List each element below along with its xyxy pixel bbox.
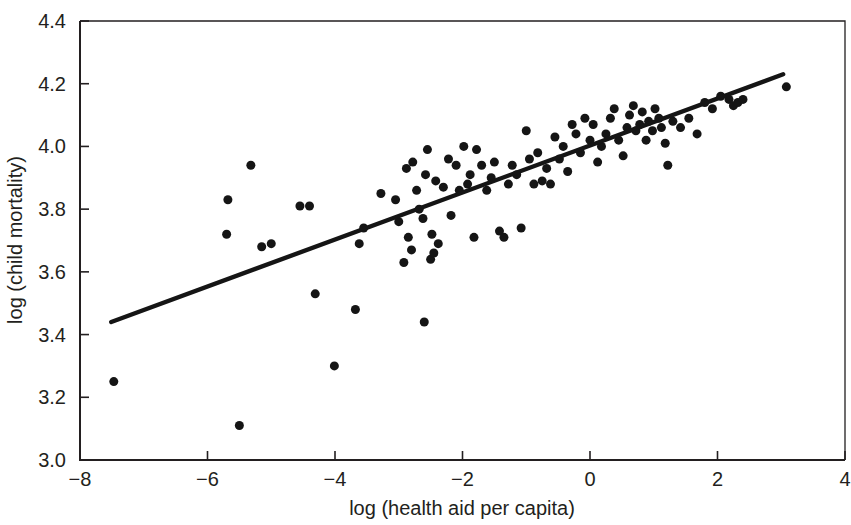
scatter-point <box>529 180 538 189</box>
scatter-point <box>412 186 421 195</box>
scatter-point <box>625 111 634 120</box>
scatter-point <box>472 145 481 154</box>
x-tick-label: −4 <box>324 468 347 490</box>
scatter-point <box>508 161 517 170</box>
scatter-point <box>420 318 429 327</box>
scatter-point <box>109 377 118 386</box>
y-tick-label: 3.4 <box>38 324 66 346</box>
scatter-point <box>642 136 651 145</box>
scatter-point <box>469 233 478 242</box>
scatter-point <box>684 114 693 123</box>
x-tick-label: 2 <box>712 468 723 490</box>
scatter-point <box>559 142 568 151</box>
x-tick-label: 4 <box>839 468 850 490</box>
axes <box>80 21 845 460</box>
scatter-point <box>431 176 440 185</box>
scatter-point <box>619 151 628 160</box>
scatter-point <box>404 233 413 242</box>
x-tick-labels: −8−6−4−2024 <box>69 468 851 490</box>
scatter-point <box>550 133 559 142</box>
scatter-point <box>593 158 602 167</box>
scatter-point <box>311 289 320 298</box>
y-tick-label: 3.0 <box>38 449 66 471</box>
y-tick-label: 3.2 <box>38 386 66 408</box>
scatter-point <box>452 161 461 170</box>
scatter-point <box>490 158 499 167</box>
scatter-point <box>459 142 468 151</box>
y-tick-label: 3.6 <box>38 261 66 283</box>
y-tick-label: 4.0 <box>38 135 66 157</box>
x-tick-label: −6 <box>196 468 219 490</box>
scatter-point <box>648 126 657 135</box>
scatter-point <box>391 195 400 204</box>
scatter-point <box>522 126 531 135</box>
scatter-point <box>376 189 385 198</box>
data-points <box>109 82 791 430</box>
scatter-point <box>434 239 443 248</box>
tick-marks <box>80 21 845 460</box>
scatter-point <box>499 233 508 242</box>
scatter-point <box>447 211 456 220</box>
scatter-point <box>418 214 427 223</box>
scatter-point <box>246 161 255 170</box>
scatter-point <box>429 249 438 258</box>
chart-canvas: −8−6−4−2024 3.03.23.43.63.84.04.24.4 log… <box>0 0 851 525</box>
scatter-point <box>657 123 666 132</box>
x-tick-label: −2 <box>451 468 474 490</box>
scatter-point <box>568 120 577 129</box>
scatter-point <box>693 129 702 138</box>
scatter-point <box>580 114 589 123</box>
scatter-point <box>421 170 430 179</box>
scatter-point <box>538 176 547 185</box>
scatter-point <box>351 305 360 314</box>
scatter-point <box>330 361 339 370</box>
scatter-point <box>235 421 244 430</box>
scatter-point <box>663 161 672 170</box>
x-tick-label: 0 <box>584 468 595 490</box>
scatter-point <box>533 148 542 157</box>
scatter-point <box>222 230 231 239</box>
y-tick-label: 4.4 <box>38 10 66 32</box>
scatter-point <box>305 202 314 211</box>
scatter-point <box>466 170 475 179</box>
scatter-point <box>504 180 513 189</box>
scatter-point <box>517 223 526 232</box>
y-axis-title: log (child mortality) <box>4 156 26 324</box>
scatter-point <box>482 186 491 195</box>
y-tick-labels: 3.03.23.43.63.84.04.24.4 <box>38 10 66 471</box>
scatter-point <box>427 230 436 239</box>
scatter-point <box>606 114 615 123</box>
scatter-point <box>571 129 580 138</box>
scatter-point <box>267 239 276 248</box>
scatter-point <box>546 180 555 189</box>
scatter-point <box>407 245 416 254</box>
scatter-point <box>708 104 717 113</box>
x-tick-label: −8 <box>69 468 92 490</box>
scatter-point <box>477 161 486 170</box>
scatter-point <box>423 145 432 154</box>
scatter-point <box>739 95 748 104</box>
scatter-point <box>408 158 417 167</box>
y-tick-label: 4.2 <box>38 73 66 95</box>
scatter-point <box>525 154 534 163</box>
scatter-point <box>439 183 448 192</box>
scatter-point <box>589 120 598 129</box>
scatter-point <box>399 258 408 267</box>
scatter-point <box>629 101 638 110</box>
scatter-point <box>542 164 551 173</box>
scatter-point <box>661 139 670 148</box>
scatter-point <box>257 242 266 251</box>
scatter-point <box>223 195 232 204</box>
scatter-plot-figure: −8−6−4−2024 3.03.23.43.63.84.04.24.4 log… <box>0 0 851 525</box>
scatter-point <box>563 167 572 176</box>
scatter-point <box>295 202 304 211</box>
scatter-point <box>676 123 685 132</box>
scatter-point <box>610 104 619 113</box>
scatter-point <box>444 154 453 163</box>
scatter-point <box>782 82 791 91</box>
regression-line-path <box>111 74 783 322</box>
scatter-point <box>651 104 660 113</box>
regression-line <box>111 74 783 322</box>
x-axis-title: log (health aid per capita) <box>349 497 575 519</box>
y-tick-label: 3.8 <box>38 198 66 220</box>
